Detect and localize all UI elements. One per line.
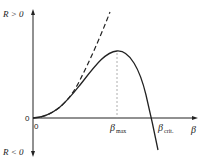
beta-max-label: βmax xyxy=(109,122,126,134)
x-axis xyxy=(33,116,198,120)
beta-crit-label: βcrit. xyxy=(157,122,174,134)
y-axis-down-arrow-icon xyxy=(31,151,35,157)
diagram: R > 0 R < 0 0 0 β βmax βcrit. xyxy=(0,0,206,161)
dashed-curve xyxy=(33,12,110,118)
x-axis-arrow-icon xyxy=(192,116,198,120)
y-positive-label: R > 0 xyxy=(2,9,24,19)
y-zero-label: 0 xyxy=(25,114,30,123)
y-axis-up-arrow-icon xyxy=(31,9,35,15)
y-negative-label: R < 0 xyxy=(2,147,24,157)
solid-curve xyxy=(33,51,158,150)
x-zero-label: 0 xyxy=(34,122,39,131)
x-axis-label: β xyxy=(190,124,196,135)
y-axis xyxy=(31,9,35,157)
